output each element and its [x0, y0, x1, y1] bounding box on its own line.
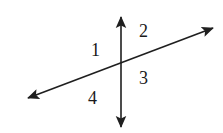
- angle-label-1: 1: [91, 41, 100, 59]
- diagram-canvas: [0, 0, 223, 133]
- angle-label-4: 4: [88, 89, 97, 107]
- angle-diagram-figure: 1 2 3 4: [0, 0, 223, 133]
- angle-label-3: 3: [139, 69, 148, 87]
- angle-label-2: 2: [139, 22, 148, 40]
